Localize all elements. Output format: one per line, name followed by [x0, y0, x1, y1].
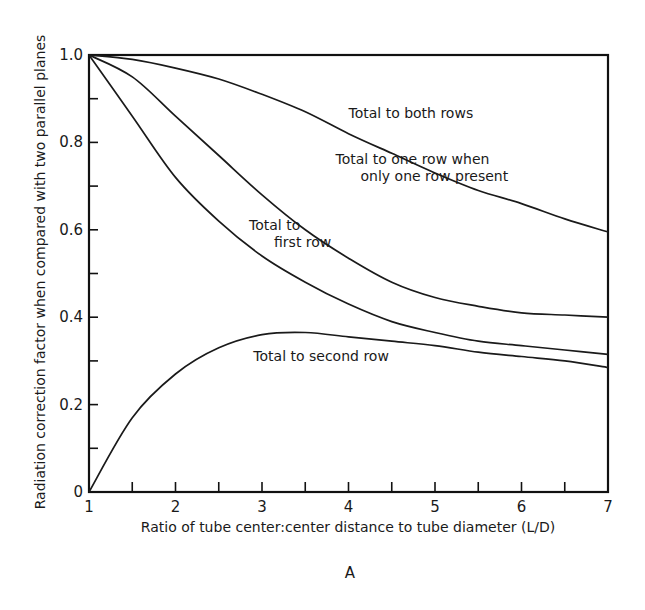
curve-label: first row — [274, 234, 331, 250]
curve-labels: Total to both rowsTotal to one row wheno… — [248, 105, 509, 364]
curve-label: Total to — [248, 217, 300, 233]
x-tick-label: 6 — [517, 498, 527, 516]
y-tick-label: 0.6 — [59, 221, 83, 239]
x-tick-label: 1 — [84, 498, 94, 516]
y-tick-label: 0.4 — [59, 308, 83, 326]
chart: 123456700.20.40.60.81.0 Total to both ro… — [0, 0, 645, 610]
x-axis-label: Ratio of tube center:center distance to … — [141, 519, 555, 535]
y-axis-label: Radiation correction factor when compare… — [32, 35, 48, 510]
curve-label: Total to both rows — [348, 105, 474, 121]
x-tick-label: 3 — [257, 498, 267, 516]
series-line — [89, 55, 608, 317]
panel-label: A — [345, 564, 356, 582]
curve-label: only one row present — [361, 168, 509, 184]
y-tick-label: 0.2 — [59, 396, 83, 414]
y-tick-label: 0 — [73, 483, 83, 501]
curve-label: Total to one row when — [335, 151, 490, 167]
x-tick-label: 2 — [171, 498, 181, 516]
series-line — [89, 55, 608, 354]
x-tick-label: 5 — [430, 498, 440, 516]
series-line — [89, 55, 608, 232]
x-tick-label: 4 — [344, 498, 354, 516]
y-tick-label: 1.0 — [59, 46, 83, 64]
axis-ticks: 123456700.20.40.60.81.0 — [59, 46, 613, 516]
y-tick-label: 0.8 — [59, 133, 83, 151]
x-tick-label: 7 — [603, 498, 613, 516]
curve-label: Total to second row — [252, 348, 389, 364]
